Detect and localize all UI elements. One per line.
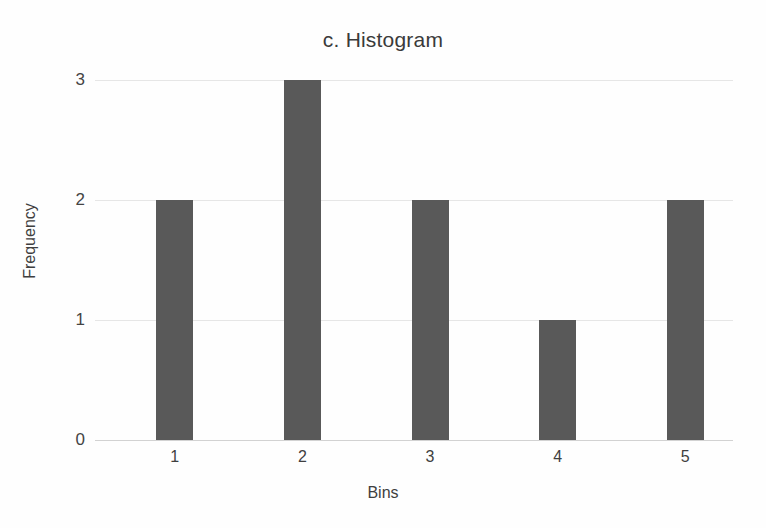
bar [667,200,704,440]
bar [284,80,321,440]
gridline [95,440,733,441]
y-axis-title: Frequency [21,181,39,301]
gridline [95,80,733,81]
x-tick-label: 1 [145,448,205,466]
y-tick-label: 2 [45,190,85,210]
bar [156,200,193,440]
y-axis-tick-labels: 0123 [40,80,85,440]
bar [412,200,449,440]
x-tick-label: 3 [400,448,460,466]
x-tick-label: 5 [655,448,715,466]
chart-page: c. Histogram Frequency 0123 12345 Bins [0,0,766,528]
y-tick-label: 3 [45,70,85,90]
x-tick-label: 2 [272,448,332,466]
plot-area [95,80,733,440]
bar [539,320,576,440]
y-tick-label: 1 [45,310,85,330]
y-tick-label: 0 [45,430,85,450]
x-axis-title: Bins [0,484,766,502]
x-tick-label: 4 [528,448,588,466]
page-title: c. Histogram [0,28,766,52]
x-axis-tick-labels: 12345 [95,448,733,474]
